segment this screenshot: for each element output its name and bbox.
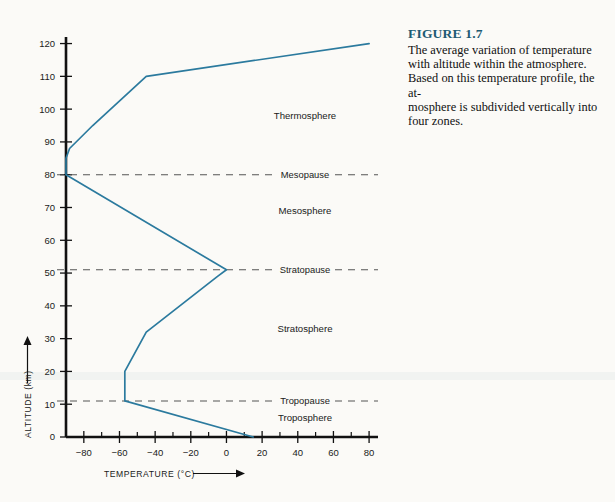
figure-caption: FIGURE 1.7 The average variation of temp…: [408, 26, 604, 128]
x-tick-label: 0: [224, 447, 229, 458]
x-axis-ticks-group: −80−60−40−20020406080: [66, 431, 374, 458]
boundary-label: Tropopause: [280, 395, 330, 406]
x-tick-label: −60: [111, 447, 127, 458]
x-tick-label: 40: [292, 447, 303, 458]
x-tick-label: −40: [147, 447, 163, 458]
temperature-profile-line: [66, 44, 369, 437]
profile-polyline: [66, 44, 369, 437]
y-tick-label: 40: [44, 300, 55, 311]
zone-label: Stratosphere: [278, 323, 333, 334]
y-tick-label: 20: [44, 366, 55, 377]
x-tick-label: 80: [364, 447, 375, 458]
x-tick-label: −80: [76, 447, 92, 458]
y-axis-title-group: ALTITUDE (km): [23, 336, 33, 438]
x-tick-label: 60: [328, 447, 339, 458]
y-tick-label: 80: [44, 169, 55, 180]
figure-container: 0102030405060708090100110120 −80−60−40−2…: [0, 0, 615, 502]
x-tick-label: −20: [183, 447, 199, 458]
y-tick-label: 120: [39, 38, 55, 49]
x-tick-label: 20: [257, 447, 268, 458]
axis-titles-group: TEMPERATURE (°C)ALTITUDE (km): [23, 336, 245, 479]
y-tick-label: 110: [40, 71, 55, 82]
x-axis-title: TEMPERATURE (°C): [104, 469, 195, 479]
y-tick-label: 90: [44, 136, 55, 147]
zone-label: Thermosphere: [274, 110, 336, 121]
axis-lines-group: [66, 37, 378, 437]
y-tick-label: 70: [44, 202, 55, 213]
zone-label: Mesosphere: [279, 205, 332, 216]
y-tick-label: 0: [50, 431, 55, 442]
y-tick-label: 10: [44, 399, 55, 410]
y-tick-label: 30: [44, 333, 55, 344]
y-tick-label: 60: [44, 235, 55, 246]
y-tick-label: 100: [39, 104, 55, 115]
boundary-label: Stratopause: [280, 264, 331, 275]
boundary-label: Mesopause: [281, 169, 329, 180]
figure-caption-text: The average variation of temperaturewith…: [408, 43, 604, 128]
x-axis-arrow-head: [236, 470, 245, 478]
y-axis-arrow-head: [24, 336, 32, 345]
figure-number-label: FIGURE 1.7: [408, 26, 604, 42]
y-tick-label: 50: [44, 267, 55, 278]
zone-label: Troposphere: [278, 412, 332, 423]
